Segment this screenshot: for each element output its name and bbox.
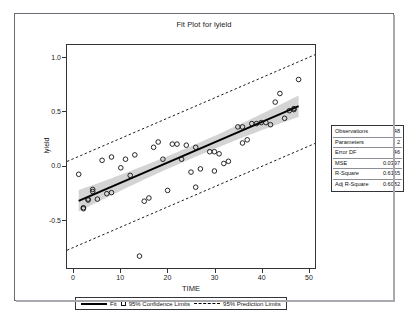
figure-frame: Fit Plot for lyield lyield -0.50.00.51.0… — [14, 13, 394, 301]
legend-label-fit: Fit — [110, 301, 117, 307]
data-point — [156, 140, 161, 145]
dashed-line-icon — [194, 303, 220, 304]
data-point — [147, 196, 152, 201]
data-point — [296, 77, 301, 82]
x-tick-label: 30 — [203, 274, 227, 281]
data-point — [198, 167, 203, 172]
plot-area — [66, 44, 316, 269]
scatter-plot-canvas — [67, 45, 315, 268]
data-point — [217, 152, 222, 157]
data-point — [212, 149, 217, 154]
data-point — [76, 172, 81, 177]
data-point — [226, 159, 231, 164]
x-tick-label: 20 — [155, 274, 179, 281]
legend-item-fit: Fit — [81, 301, 117, 307]
data-point — [193, 185, 198, 190]
legend-label-prediction: 95% Prediction Limits — [223, 301, 281, 307]
data-point — [240, 141, 245, 146]
y-tick-label: 0.0 — [39, 162, 61, 169]
data-point — [123, 157, 128, 162]
y-tick-label: 1.0 — [39, 54, 61, 61]
data-point — [170, 142, 175, 147]
stats-row: Observations48 — [333, 127, 402, 137]
stats-row: R-Square0.6165 — [333, 168, 402, 179]
x-tick-mark — [120, 269, 121, 273]
data-point — [100, 158, 105, 163]
y-axis-ticks: -0.50.00.51.0 — [37, 44, 61, 269]
stats-row-value: 48 — [394, 127, 400, 137]
y-tick-label: -0.5 — [39, 217, 61, 224]
legend-label-confidence: 95% Confidence Limits — [129, 301, 190, 307]
stats-row-label: R-Square — [335, 169, 359, 179]
data-point — [151, 145, 156, 150]
data-point — [273, 100, 278, 105]
legend-item-confidence: 95% Confidence Limits — [121, 301, 190, 307]
x-tick-label: 0 — [61, 274, 85, 281]
x-tick-mark — [73, 269, 74, 273]
stats-row: Parameters2 — [333, 137, 402, 148]
data-point — [189, 170, 194, 175]
data-point — [245, 138, 250, 143]
data-point — [109, 155, 114, 160]
page-title: Fit Plot for lyield — [15, 20, 393, 29]
stats-row-value: 2 — [397, 138, 400, 148]
stats-row-label: Observations — [335, 127, 368, 137]
data-point — [137, 254, 142, 259]
stats-row-value: 0.0397 — [383, 159, 400, 169]
legend-item-prediction: 95% Prediction Limits — [194, 301, 281, 307]
data-point — [175, 142, 180, 147]
data-point — [165, 188, 170, 193]
data-point — [119, 166, 124, 171]
stats-row: Error DF46 — [333, 147, 402, 158]
x-axis-label: TIME — [66, 284, 316, 293]
stats-row-value: 46 — [394, 148, 400, 158]
x-tick-label: 10 — [108, 274, 132, 281]
stats-row-value: 0.6165 — [383, 169, 400, 179]
statistics-box: Observations48Parameters2Error DF46MSE0.… — [331, 125, 404, 192]
solid-line-icon — [81, 303, 107, 305]
x-tick-label: 50 — [297, 274, 321, 281]
y-tick-label: 0.5 — [39, 108, 61, 115]
stats-row-label: Error DF — [335, 148, 356, 158]
stats-row: Adj R-Square0.6082 — [333, 179, 402, 190]
data-point — [222, 161, 227, 166]
stats-row-label: MSE — [335, 159, 347, 169]
stats-row-value: 0.6082 — [383, 180, 400, 190]
stats-row-label: Adj R-Square — [335, 180, 369, 190]
x-tick-mark — [215, 269, 216, 273]
chart-legend: Fit 95% Confidence Limits 95% Prediction… — [75, 297, 287, 310]
stats-row-label: Parameters — [335, 138, 364, 148]
data-point — [278, 91, 283, 96]
x-tick-label: 40 — [250, 274, 274, 281]
data-point — [142, 199, 147, 204]
x-tick-mark — [167, 269, 168, 273]
data-point — [133, 153, 138, 158]
x-tick-mark — [262, 269, 263, 273]
x-tick-mark — [309, 269, 310, 273]
data-point — [184, 143, 189, 148]
square-swatch-icon — [121, 301, 126, 306]
stats-row: MSE0.0397 — [333, 158, 402, 169]
data-point — [212, 169, 217, 174]
